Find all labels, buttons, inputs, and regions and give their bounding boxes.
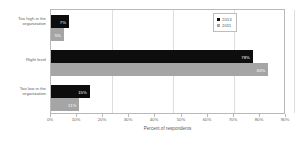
x-tick-label: 20%: [98, 117, 107, 122]
bar-group-too-high: 7% 5%: [51, 10, 284, 45]
bar-2013-right-level: 78%: [51, 50, 253, 63]
bar-value-label: 78%: [241, 54, 250, 59]
x-tick-label: 40%: [150, 117, 159, 122]
legend: 2013 2011: [213, 13, 237, 32]
x-tick-label: 90%: [281, 117, 290, 122]
plot-area: 7% 5% 78% 84% 15% 11%: [50, 9, 285, 114]
x-tick-label: 70%: [229, 117, 238, 122]
bar-chart: 7% 5% 78% 84% 15% 11% Too high in the: [0, 0, 295, 141]
legend-swatch-icon: [217, 24, 220, 27]
category-label-too-high: Too high in the organization: [0, 16, 46, 27]
x-tick-label: 10%: [72, 117, 81, 122]
x-tick-label: 0%: [47, 117, 53, 122]
gridline-40: [294, 10, 295, 113]
bar-value-label: 15%: [78, 89, 87, 94]
legend-swatch-icon: [217, 18, 220, 21]
legend-label: 2011: [222, 23, 231, 28]
x-axis-title: Percent of respondents: [50, 126, 285, 132]
x-tick-label: 60%: [203, 117, 212, 122]
bar-value-label: 5%: [55, 32, 61, 37]
x-tick-label: 50%: [177, 117, 186, 122]
bar-value-label: 84%: [257, 67, 266, 72]
legend-item-2013: 2013: [217, 17, 232, 22]
bar-2011-too-high: 5%: [51, 28, 64, 41]
bar-group-right-level: 78% 84%: [51, 45, 284, 80]
legend-item-2011: 2011: [217, 23, 232, 28]
bar-group-too-low: 15% 11%: [51, 80, 284, 115]
bar-value-label: 11%: [68, 102, 76, 107]
bar-2011-too-low: 11%: [51, 98, 79, 111]
x-tick-label: 30%: [124, 117, 133, 122]
bar-2013-too-low: 15%: [51, 85, 90, 98]
category-label-right-level: Right level: [0, 57, 46, 62]
bar-2011-right-level: 84%: [51, 63, 268, 76]
bar-value-label: 7%: [60, 19, 66, 24]
bar-2013-too-high: 7%: [51, 15, 69, 28]
legend-label: 2013: [222, 17, 232, 22]
x-tick-label: 80%: [255, 117, 264, 122]
category-label-too-low: Too low in the organization: [0, 86, 46, 97]
